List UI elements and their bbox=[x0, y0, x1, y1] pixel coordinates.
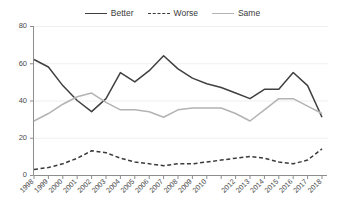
x-tick-label: 2013 bbox=[234, 177, 252, 195]
chart-plot-area: 020406080 199819992000200120022003200420… bbox=[0, 0, 345, 218]
x-tick-label: 2006 bbox=[133, 177, 151, 195]
chart-series-group bbox=[34, 56, 322, 170]
y-tick-label: 0 bbox=[23, 170, 27, 179]
series-line-worse bbox=[34, 149, 322, 169]
x-tick-label: 2000 bbox=[47, 177, 65, 195]
x-tick-label: 2017 bbox=[291, 177, 309, 195]
x-axis-tick-marks bbox=[34, 176, 322, 180]
x-tick-label: 1999 bbox=[32, 177, 50, 195]
y-tick-label: 40 bbox=[19, 96, 27, 105]
y-axis-tick-labels: 020406080 bbox=[19, 21, 27, 179]
x-tick-label: 1998 bbox=[18, 177, 36, 195]
y-tick-label: 60 bbox=[19, 59, 27, 68]
x-tick-label: 2010 bbox=[191, 177, 209, 195]
x-tick-label: 2016 bbox=[277, 177, 295, 195]
x-axis-tick-labels: 1998199920002001200220032004200520062007… bbox=[18, 177, 324, 195]
series-line-same bbox=[34, 93, 322, 121]
y-tick-label: 80 bbox=[19, 21, 27, 30]
y-axis-tick-marks bbox=[30, 27, 34, 176]
x-tick-label: 2009 bbox=[176, 177, 194, 195]
x-tick-label: 2004 bbox=[104, 177, 122, 195]
x-tick-label: 2002 bbox=[75, 177, 93, 195]
x-tick-label: 2003 bbox=[90, 177, 108, 195]
series-line-better bbox=[34, 56, 322, 117]
x-tick-label: 2012 bbox=[219, 177, 237, 195]
x-tick-label: 2015 bbox=[263, 177, 281, 195]
x-tick-label: 2014 bbox=[248, 177, 266, 195]
y-tick-label: 20 bbox=[19, 133, 27, 142]
x-tick-label: 2008 bbox=[162, 177, 180, 195]
x-tick-label: 2018 bbox=[306, 177, 324, 195]
x-tick-label: 2005 bbox=[119, 177, 137, 195]
x-tick-label: 2001 bbox=[61, 177, 79, 195]
x-tick-label: 2007 bbox=[147, 177, 165, 195]
line-chart: Better Worse Same 020406080 199819992000… bbox=[0, 0, 345, 218]
